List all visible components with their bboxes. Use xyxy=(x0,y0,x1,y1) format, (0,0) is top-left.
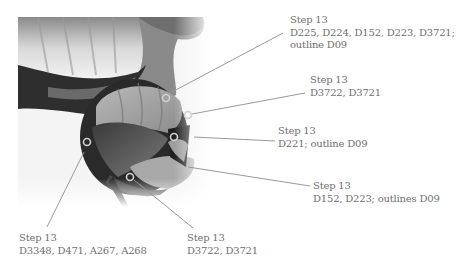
embroidery-photo xyxy=(18,17,213,207)
annotation-threads: D152, D223; outlines D09 xyxy=(313,193,440,206)
annotation-step: Step 13 xyxy=(290,14,455,27)
annotation-threads: D3722, D3721 xyxy=(310,87,381,100)
annotation-4: Step 13 D152, D223; outlines D09 xyxy=(313,180,440,205)
annotation-step: Step 13 xyxy=(313,180,440,193)
annotation-2: Step 13 D3722, D3721 xyxy=(310,74,381,99)
annotation-step: Step 13 xyxy=(278,125,367,138)
annotation-6: Step 13 D3722, D3721 xyxy=(187,232,258,257)
annotation-step: Step 13 xyxy=(19,232,147,245)
annotation-step: Step 13 xyxy=(310,74,381,87)
annotation-5: Step 13 D3348, D471, A267, A268 xyxy=(19,232,147,257)
annotation-extra: outline D09 xyxy=(290,39,455,52)
annotation-threads: D3722, D3721 xyxy=(187,245,258,258)
annotation-threads: D3348, D471, A267, A268 xyxy=(19,245,147,258)
annotation-step: Step 13 xyxy=(187,232,258,245)
annotation-threads: D221; outline D09 xyxy=(278,138,367,151)
annotation-threads: D225, D224, D152, D223, D3721; xyxy=(290,27,455,40)
annotation-1: Step 13 D225, D224, D152, D223, D3721; o… xyxy=(290,14,455,52)
annotation-3: Step 13 D221; outline D09 xyxy=(278,125,367,150)
